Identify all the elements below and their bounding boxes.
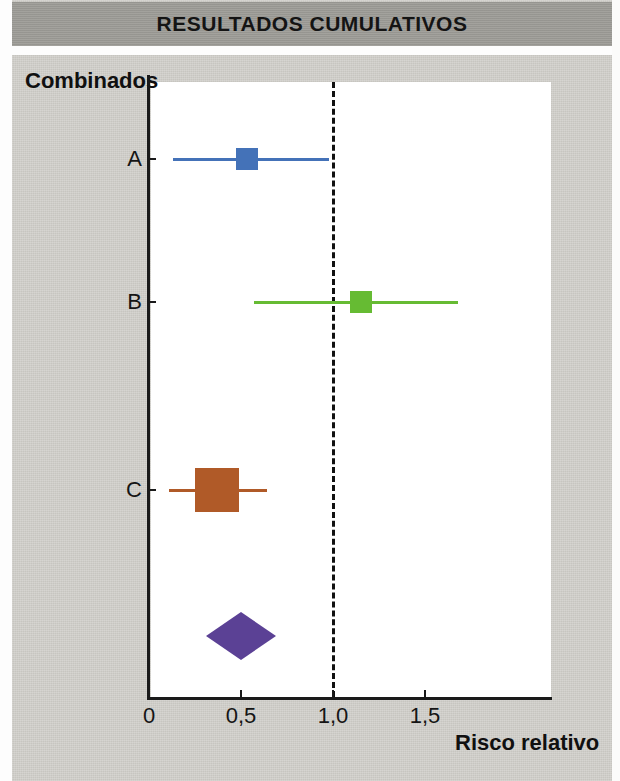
- forest-plot-figure: RESULTADOS CUMULATIVOS Combinados ABC00,…: [0, 0, 620, 781]
- y-axis-tick-label: C: [112, 477, 142, 503]
- y-axis-tick: [147, 301, 156, 303]
- page-title: RESULTADOS CUMULATIVOS: [157, 12, 468, 36]
- x-axis-title: Risco relativo: [455, 730, 599, 756]
- x-axis-tick: [148, 690, 150, 698]
- y-axis-tick: [147, 158, 156, 160]
- study-point-estimate-marker: [195, 468, 239, 512]
- y-axis-tick: [147, 489, 156, 491]
- left-page-margin: [0, 0, 12, 781]
- x-axis-tick-label: 0: [143, 703, 155, 729]
- x-axis-tick: [424, 690, 426, 698]
- x-axis-tick-label: 0,5: [226, 703, 257, 729]
- y-axis-group-label: Combinados: [25, 68, 158, 94]
- no-effect-reference-line: [332, 82, 335, 697]
- title-band: RESULTADOS CUMULATIVOS: [12, 2, 612, 46]
- y-axis-line: [147, 75, 150, 700]
- x-axis-tick: [332, 690, 334, 698]
- y-axis-tick-label: B: [112, 289, 142, 315]
- x-axis-line: [147, 697, 552, 700]
- study-point-estimate-marker: [350, 291, 372, 313]
- x-axis-tick: [240, 690, 242, 698]
- right-page-margin: [612, 0, 620, 781]
- x-axis-tick-label: 1,0: [318, 703, 349, 729]
- y-axis-tick-label: A: [112, 146, 142, 172]
- study-point-estimate-marker: [236, 148, 258, 170]
- plot-area: [151, 82, 551, 697]
- x-axis-tick-label: 1,5: [410, 703, 441, 729]
- title-band-separator: [12, 46, 612, 55]
